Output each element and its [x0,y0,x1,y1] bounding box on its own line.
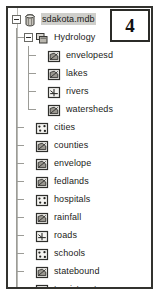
tree-connector-line [16,253,24,254]
tree-indent [8,172,24,190]
callout-number: 4 [125,16,135,35]
point-feature-class-icon [35,193,49,206]
tree-indent [8,28,24,46]
point-feature-class-icon [35,247,49,260]
polygon-feature-class-icon [47,67,61,80]
tree-connector-line [16,235,24,236]
tree-item-label: rivers [65,85,90,97]
tree-item-roads[interactable]: roads [8,226,151,244]
tree-item-envelope[interactable]: envelope [8,154,151,172]
tree-item-label: counties [53,139,89,151]
tree-item-lakes[interactable]: lakes [8,64,151,82]
tree-toggle-spacer [24,172,35,190]
tree-item-envelopesd[interactable]: envelopesd [8,46,151,64]
tree-item-label: statebound [53,265,101,277]
tree-item-label: lakes [65,67,89,79]
tree-item-fedlands[interactable]: fedlands [8,172,151,190]
geodatabase-tree[interactable]: sdakota.mdbHydrologyenvelopesdlakesriver… [8,10,151,287]
tree-connector-line [16,271,24,272]
tree-indent [8,46,36,64]
tree-connector-line [16,145,24,146]
tree-item-statebound[interactable]: statebound [8,262,151,280]
tree-item-label: sdakota.mdb [41,13,96,25]
tree-collapse-toggle[interactable] [24,33,33,42]
tree-item-watersheds[interactable]: watersheds [8,100,151,118]
tree-indent [8,244,24,262]
tree-toggle-spacer [36,46,47,64]
polygon-feature-class-icon [47,49,61,62]
tree-item-label: rainfall [53,211,82,223]
tree-item-hospitals[interactable]: hospitals [8,190,151,208]
tree-item-touristspots[interactable]: touristspots [8,280,151,287]
tree-indent [8,280,24,287]
line-feature-class-icon [47,85,61,98]
tree-toggle-spacer [36,82,47,100]
tree-indent [8,262,24,280]
tree-toggle-spacer [24,136,35,154]
tree-connector-line [16,100,17,118]
tree-indent [8,64,36,82]
polygon-feature-class-icon [35,139,49,152]
tree-indent [8,100,36,118]
geodatabase-icon [23,13,37,26]
tree-item-label: envelope [53,157,92,169]
tree-connector-line [28,73,36,74]
tree-toggle-spacer [24,118,35,136]
tree-item-counties[interactable]: counties [8,136,151,154]
tree-toggle-spacer [24,208,35,226]
tree-indent [8,136,24,154]
tree-item-label: schools [53,247,86,259]
tree-connector-line [16,127,24,128]
tree-toggle-spacer [24,244,35,262]
tree-indent [8,118,24,136]
tree-toggle-spacer [24,226,35,244]
tree-collapse-toggle[interactable] [12,15,21,24]
tree-connector-line [16,280,17,287]
tree-toggle-spacer [24,280,35,287]
tree-item-label: hospitals [53,193,91,205]
tree-connector-line [16,199,24,200]
tree-toggle-spacer [36,100,47,118]
tree-toggle-spacer [24,262,35,280]
tree-indent [8,226,24,244]
polygon-feature-class-icon [35,211,49,224]
feature-dataset-icon [35,31,49,44]
tree-item-label: Hydrology [53,31,96,43]
tree-item-label: fedlands [53,175,90,187]
tree-connector-line [16,64,17,82]
polygon-feature-class-icon [47,103,61,116]
tree-item-label: roads [53,229,78,241]
polygon-feature-class-icon [35,265,49,278]
tree-connector-line [16,82,17,100]
tree-item-label: touristspots [53,283,102,287]
tree-connector-line [28,100,29,109]
tree-indent [8,154,24,172]
tree-connector-line [16,46,17,64]
tree-item-rainfall[interactable]: rainfall [8,208,151,226]
tree-connector-line [28,91,36,92]
tree-connector-line [16,217,24,218]
tree-item-label: cities [53,121,76,133]
tree-item-label: watersheds [65,103,114,115]
point-feature-class-icon [35,283,49,288]
tree-item-rivers[interactable]: rivers [8,82,151,100]
tree-item-schools[interactable]: schools [8,244,151,262]
screenshot-root: sdakota.mdbHydrologyenvelopesdlakesriver… [0,0,160,303]
tree-indent [8,82,36,100]
tree-item-cities[interactable]: cities [8,118,151,136]
tree-connector-line [28,109,36,110]
catalog-tree-window: sdakota.mdbHydrologyenvelopesdlakesriver… [6,6,153,289]
polygon-feature-class-icon [35,157,49,170]
tree-toggle-spacer [24,154,35,172]
tree-connector-line [16,37,24,38]
polygon-feature-class-icon [35,175,49,188]
tree-indent [8,190,24,208]
callout-badge: 4 [110,9,150,42]
tree-connector-line [28,55,36,56]
tree-connector-line [16,181,24,182]
tree-toggle-spacer [36,64,47,82]
catalog-tree-panel[interactable]: sdakota.mdbHydrologyenvelopesdlakesriver… [8,8,151,287]
tree-toggle-spacer [24,190,35,208]
tree-item-label: envelopesd [65,49,114,61]
line-feature-class-icon [35,229,49,242]
